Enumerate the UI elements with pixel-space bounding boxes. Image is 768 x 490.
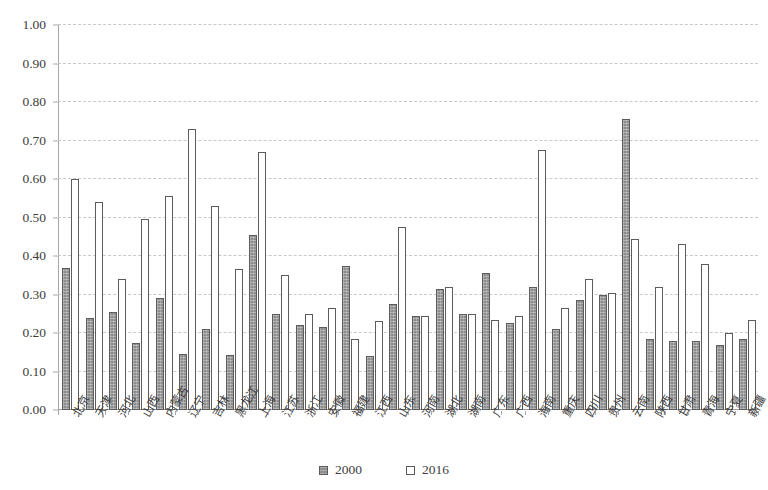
bar-2016 [281, 275, 289, 410]
y-axis-tick-label: 0.80 [22, 95, 46, 109]
x-axis-tick [665, 411, 666, 415]
x-axis-tick [641, 411, 642, 415]
x-axis-tick [221, 411, 222, 415]
bar-2000 [342, 266, 350, 410]
bar-group [272, 25, 289, 410]
y-axis-tick-label: 0.00 [22, 403, 46, 417]
bar-group [296, 25, 313, 410]
bar-group [226, 25, 243, 410]
bar-2000 [412, 316, 420, 410]
y-axis-tick-label: 0.40 [22, 249, 46, 263]
bar-group [716, 25, 733, 410]
bar-2000 [482, 273, 490, 410]
y-axis-tick-label: 0.70 [22, 134, 46, 148]
bar-group [576, 25, 593, 410]
bar-group [552, 25, 569, 410]
bar-group [109, 25, 126, 410]
x-axis-tick [151, 411, 152, 415]
bar-group [482, 25, 499, 410]
bar-group [132, 25, 149, 410]
y-axis-tick-label: 0.50 [22, 211, 46, 225]
legend-item[interactable]: 2016 [406, 462, 449, 478]
y-axis-tick-label: 0.10 [22, 365, 46, 379]
bar-group [692, 25, 709, 410]
bar-2000 [459, 314, 467, 410]
y-axis-tick-label: 0.20 [22, 326, 46, 340]
bar-2000 [576, 300, 584, 410]
bar-group [412, 25, 429, 410]
bar-2016 [118, 279, 126, 410]
bar-2016 [165, 196, 173, 410]
bar-group [62, 25, 79, 410]
x-axis-tick [478, 411, 479, 415]
y-axis-tick-label: 0.90 [22, 57, 46, 71]
bar-2016 [678, 244, 686, 410]
x-axis-tick [128, 411, 129, 415]
bar-2016 [701, 264, 709, 410]
bar-2016 [585, 279, 593, 410]
bar-group [459, 25, 476, 410]
bar-group [506, 25, 523, 410]
bar-group [249, 25, 266, 410]
x-axis-tick [315, 411, 316, 415]
bar-2016 [445, 287, 453, 410]
bar-2000 [156, 298, 164, 410]
bar-group [86, 25, 103, 410]
y-axis: 0.000.100.200.300.400.500.600.700.800.90… [0, 0, 52, 490]
x-axis-tick [81, 411, 82, 415]
x-axis-tick [711, 411, 712, 415]
bar-group [622, 25, 639, 410]
x-axis-tick [385, 411, 386, 415]
bar-group [436, 25, 453, 410]
x-axis-tick [455, 411, 456, 415]
x-axis-tick [408, 411, 409, 415]
bar-2016 [631, 239, 639, 410]
legend-item[interactable]: 2000 [319, 462, 362, 478]
bar-2000 [622, 119, 630, 410]
y-axis-tick-label: 0.60 [22, 172, 46, 186]
bar-group [202, 25, 219, 410]
bar-group [599, 25, 616, 410]
x-axis-tick [548, 411, 549, 415]
bar-2000 [389, 304, 397, 410]
x-axis-tick [525, 411, 526, 415]
bar-group [342, 25, 359, 410]
bar-group [156, 25, 173, 410]
bar-group [739, 25, 756, 410]
x-axis-tick [571, 411, 572, 415]
bar-group [179, 25, 196, 410]
bar-2000 [249, 235, 257, 410]
x-axis-tick [618, 411, 619, 415]
legend-swatch-2016-icon [406, 466, 415, 475]
bar-2000 [436, 289, 444, 410]
bar-2000 [109, 312, 117, 410]
x-axis-tick [175, 411, 176, 415]
bar-2016 [141, 219, 149, 410]
x-axis-tick [58, 411, 59, 415]
legend-label: 2016 [422, 462, 449, 478]
bar-2016 [515, 316, 523, 410]
bar-2016 [398, 227, 406, 410]
x-axis-tick [735, 411, 736, 415]
bars-layer [58, 25, 758, 410]
bar-2000 [529, 287, 537, 410]
bar-2016 [258, 152, 266, 410]
bar-2016 [491, 320, 499, 410]
bar-2016 [538, 150, 546, 410]
legend-swatch-2000-icon [319, 466, 328, 475]
x-axis-tick [268, 411, 269, 415]
x-axis-tick [291, 411, 292, 415]
x-axis-tick [595, 411, 596, 415]
legend-label: 2000 [335, 462, 362, 478]
bar-2016 [561, 308, 569, 410]
bar-2016 [235, 269, 243, 410]
bar-group [669, 25, 686, 410]
bar-group [389, 25, 406, 410]
x-axis-tick [431, 411, 432, 415]
bar-2016 [655, 287, 663, 410]
x-axis-tick [338, 411, 339, 415]
bar-group [366, 25, 383, 410]
x-axis-tick [245, 411, 246, 415]
bar-group [646, 25, 663, 410]
bar-group [529, 25, 546, 410]
